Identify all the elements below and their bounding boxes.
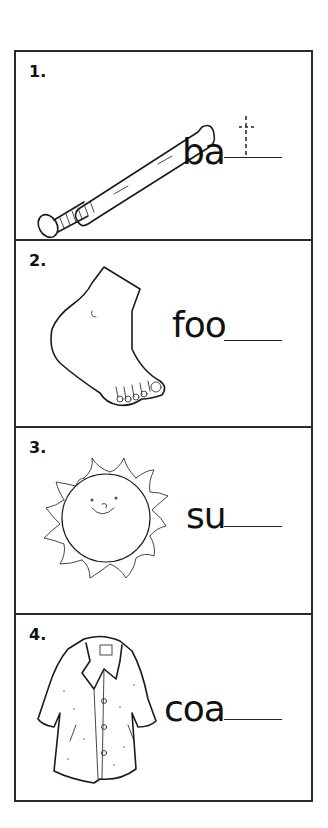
word-prefix: foo — [172, 307, 226, 343]
answer-blank[interactable] — [224, 340, 282, 341]
answer-blank[interactable] — [224, 526, 282, 527]
item-number: 2. — [29, 251, 46, 270]
word-prefix: coa — [164, 691, 225, 727]
answer-blank[interactable] — [224, 719, 282, 720]
item-row-2: 2. foo — [16, 239, 311, 426]
item-row-1: 1. ba — [16, 52, 311, 239]
item-row-3: 3. su — [16, 426, 311, 613]
item-row-4: 4. coa — [16, 613, 311, 800]
coat-icon — [24, 629, 164, 803]
sun-icon — [38, 448, 178, 592]
word-prefix: su — [186, 498, 226, 534]
word-prefix: ba — [182, 134, 225, 170]
foot-icon — [46, 259, 176, 413]
dashed-letter-t-guide — [238, 116, 258, 164]
worksheet-box: 1. ba 2. — [14, 50, 313, 802]
